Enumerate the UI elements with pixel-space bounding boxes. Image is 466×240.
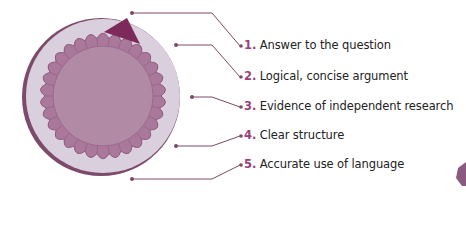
- criterion-3-number: 3.: [244, 99, 256, 113]
- leader-line-3: [192, 97, 240, 107]
- leader-line-2: [176, 45, 240, 77]
- criterion-4-number: 4.: [244, 128, 256, 142]
- criterion-5: 5. Accurate use of language: [244, 157, 404, 171]
- leader-line-4: [176, 136, 240, 146]
- criterion-4: 4. Clear structure: [244, 128, 344, 142]
- leader-end-dots: [239, 44, 243, 167]
- criterion-2: 2. Logical, concise argument: [244, 69, 408, 83]
- criterion-1: 1. Answer to the question: [244, 38, 391, 52]
- criterion-2-number: 2.: [244, 69, 256, 83]
- dial-inner-disc: [53, 46, 153, 146]
- corner-decoration-icon: [456, 162, 466, 186]
- criterion-3-text: Evidence of independent research: [260, 99, 454, 113]
- criterion-1-number: 1.: [244, 38, 256, 52]
- criterion-5-text: Accurate use of language: [260, 157, 405, 171]
- leader-line-5: [132, 165, 240, 179]
- criterion-4-text: Clear structure: [260, 128, 344, 142]
- criterion-2-text: Logical, concise argument: [260, 69, 408, 83]
- criterion-3: 3. Evidence of independent research: [244, 99, 453, 113]
- criterion-5-number: 5.: [244, 157, 256, 171]
- criterion-1-text: Answer to the question: [260, 38, 391, 52]
